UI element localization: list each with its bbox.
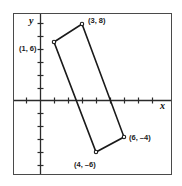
y-axis-label: y [29, 16, 33, 26]
vertex-label-3-8: (3, 8) [88, 17, 106, 25]
vertex-marker-6-n4 [122, 135, 125, 138]
vertex-marker-1-6 [52, 40, 55, 43]
vertex-marker-4-n6 [94, 150, 97, 153]
vertex-label-1-6: (1, 6) [19, 45, 37, 53]
vertex-label-4-neg6: (4, –6) [74, 161, 96, 169]
vertex-label-6-neg4: (6, –4) [129, 134, 151, 142]
plot-graphics [0, 0, 182, 186]
quadrilateral-shape [54, 24, 124, 152]
x-axis-label: x [160, 101, 165, 111]
coordinate-plane-figure: (3, 8) (1, 6) (6, –4) (4, –6) x y [0, 0, 182, 186]
vertex-marker-3-8 [80, 22, 83, 25]
